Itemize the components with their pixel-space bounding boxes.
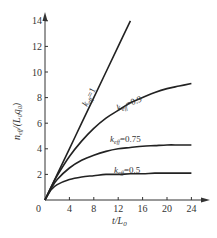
- y-tick-label: 12: [32, 41, 42, 52]
- y-tick-label: 14: [32, 15, 42, 26]
- x-tick-label: 16: [138, 203, 148, 214]
- label-keff-0.5: keff=0.5: [114, 165, 141, 176]
- y-axis-label: neff/(L0q0): [11, 102, 23, 140]
- y-tick-label: 4: [37, 143, 42, 154]
- x-axis-arrow-icon: [201, 198, 210, 203]
- label-keff-0.75: keff=0.75: [110, 134, 141, 145]
- y-tick-label: 2: [37, 169, 42, 180]
- curve-k-eff-0.5: [45, 173, 191, 200]
- chart: 4812162024 2468101214 0 t/L0 neff/(L0q0)…: [0, 0, 217, 238]
- y-tick-label: 6: [37, 118, 42, 129]
- x-axis-label: t/L0: [112, 215, 127, 228]
- label-keff-1: keff=1: [80, 86, 99, 108]
- x-tick-label: 24: [186, 203, 196, 214]
- y-ticks: 2468101214: [32, 15, 48, 180]
- origin-label: 0: [36, 203, 41, 214]
- x-tick-label: 4: [67, 203, 72, 214]
- y-tick-label: 10: [32, 67, 42, 78]
- y-axis-arrow-icon: [43, 12, 48, 21]
- x-tick-label: 12: [113, 203, 123, 214]
- x-tick-label: 20: [162, 203, 172, 214]
- x-tick-label: 8: [91, 203, 96, 214]
- y-tick-label: 8: [37, 92, 42, 103]
- label-keff-0.9: keff=0.9: [115, 94, 144, 114]
